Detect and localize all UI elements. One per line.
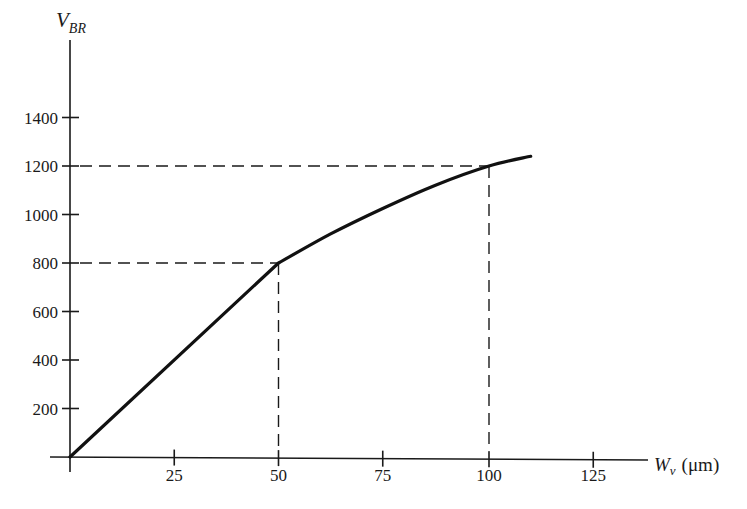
breakdown-voltage-chart: 200400600800100012001400255075100125 VBR…	[0, 0, 747, 509]
y-tick-label: 1000	[24, 206, 58, 225]
y-tick-label: 800	[33, 254, 59, 273]
y-tick-label: 200	[33, 400, 59, 419]
x-tick-label: 100	[476, 466, 502, 485]
vbr-curve	[70, 156, 531, 457]
x-axis-line	[50, 457, 648, 460]
x-tick-label: 50	[270, 466, 287, 485]
data-curve	[70, 156, 531, 457]
y-tick-label: 1200	[24, 157, 58, 176]
x-tick-label: 125	[581, 466, 607, 485]
x-tick-label: 75	[374, 466, 391, 485]
axes: 200400600800100012001400255075100125	[24, 40, 648, 485]
y-tick-label: 1400	[24, 109, 58, 128]
x-axis-label: Wν(μm)	[654, 454, 719, 478]
dashed-guides	[80, 166, 489, 451]
y-axis-label: VBR	[56, 8, 86, 36]
y-tick-label: 600	[33, 303, 59, 322]
axis-labels: VBR Wν(μm)	[56, 8, 719, 478]
x-tick-label: 25	[166, 466, 183, 485]
y-tick-label: 400	[33, 351, 59, 370]
